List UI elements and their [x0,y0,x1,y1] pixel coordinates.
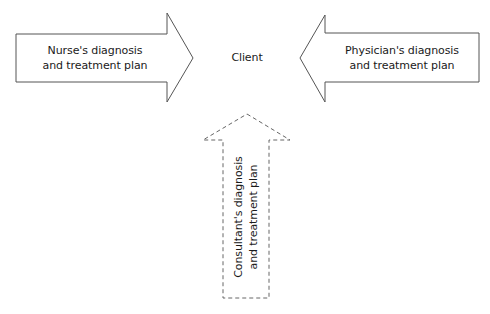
nurse-label-line-2: and treatment plan [20,58,170,73]
physician-label-line-1: Physician's diagnosis [326,43,478,58]
nurse-arrow-label: Nurse's diagnosis and treatment plan [20,43,170,73]
nurse-label-line-1: Nurse's diagnosis [20,43,170,58]
physician-arrow-label: Physician's diagnosis and treatment plan [326,43,478,73]
consultant-arrow-label: Consultant's diagnosis and treatment pla… [231,142,261,292]
physician-label-line-2: and treatment plan [326,58,478,73]
client-label: Client [222,50,272,65]
consultant-label-line-2: and treatment plan [246,142,261,292]
consultant-label-line-1: Consultant's diagnosis [231,142,246,292]
